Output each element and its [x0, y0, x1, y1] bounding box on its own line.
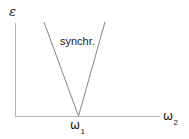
plot-canvas — [0, 0, 189, 139]
x-axis-label-subscript: 2 — [174, 118, 178, 127]
x-axis-label-omega2: ω2 — [163, 110, 178, 125]
x-axis-tick-label-omega1: ω1 — [70, 119, 85, 134]
arnold-tongue-figure: ε synchr. ω1 ω2 — [0, 0, 189, 139]
y-axis-label: ε — [9, 5, 16, 18]
x-tick-label-base: ω — [70, 118, 80, 132]
x-tick-label-subscript: 1 — [81, 127, 85, 136]
synchronization-region-label: synchr. — [60, 36, 95, 47]
x-axis-label-base: ω — [163, 109, 173, 123]
